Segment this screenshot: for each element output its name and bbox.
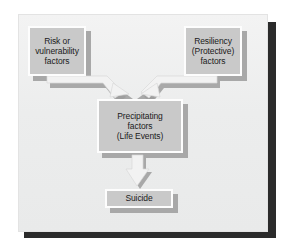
precipitating-box-label: Precipitatingfactors(Life Events): [99, 111, 181, 141]
risk-box-label: Risk orvulnerabilityfactors: [30, 36, 84, 66]
node-resiliency-protective-factors[interactable]: Resiliency(Protective)factors: [184, 26, 242, 76]
suicide-box-label: Suicide: [107, 193, 171, 203]
diagram-canvas: Risk orvulnerabilityfactors Resiliency(P…: [0, 0, 287, 249]
node-risk-or-vulnerability-factors[interactable]: Risk orvulnerabilityfactors: [28, 26, 86, 76]
arrow-precipitating-to-suicide: [126, 155, 152, 189]
node-suicide[interactable]: Suicide: [105, 189, 173, 208]
node-precipitating-factors-life-events[interactable]: Precipitatingfactors(Life Events): [97, 99, 183, 153]
resiliency-box-label: Resiliency(Protective)factors: [186, 36, 240, 66]
